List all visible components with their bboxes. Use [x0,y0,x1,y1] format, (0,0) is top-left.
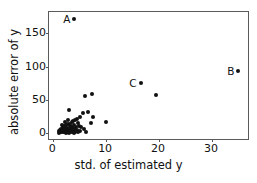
data-point [72,131,76,135]
y-tick-mark [46,133,49,134]
data-point [67,108,71,112]
data-points-layer: ABC [49,12,248,139]
data-point-c [139,81,143,85]
scatter-chart-figure: ABC 0102030 050100150 std. of estimated … [0,0,257,183]
data-point-a [72,17,76,21]
x-tick-label: 10 [98,142,112,155]
point-label-b: B [227,66,236,77]
x-tick-label: 20 [151,142,165,155]
y-tick-label: 50 [32,92,46,105]
y-tick-label: 100 [25,59,46,72]
point-label-a: A [63,13,72,24]
y-tick-mark [46,33,49,34]
data-point [66,118,70,122]
data-point [81,111,85,115]
y-tick-label: 150 [25,26,46,39]
data-point [104,120,108,124]
x-tick-label: 30 [204,142,218,155]
data-point [83,94,87,98]
y-tick-mark [46,100,49,101]
data-point [154,93,158,97]
data-point [84,130,88,134]
data-point [60,123,64,127]
data-point [57,131,61,135]
y-axis-label: absolute error of y [7,17,21,147]
plot-area: ABC [48,11,249,140]
data-point [89,121,93,125]
x-tick-label: 0 [49,142,56,155]
data-point [91,115,95,119]
data-point [78,129,82,133]
data-point [86,110,90,114]
point-label-c: C [129,78,138,89]
x-axis-label: std. of estimated y [0,158,257,172]
data-point [67,131,71,135]
data-point [90,92,94,96]
y-tick-label: 0 [39,126,46,139]
data-point-b [236,69,240,73]
y-tick-mark [46,67,49,68]
